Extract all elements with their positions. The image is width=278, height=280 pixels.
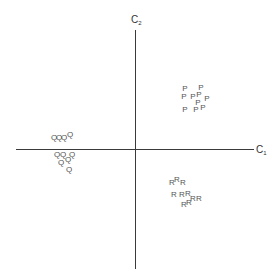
point-q: Q	[58, 159, 64, 167]
point-p: P	[200, 104, 205, 112]
point-q: Q	[65, 156, 71, 164]
point-r: R	[174, 176, 180, 184]
x-axis-label: C1	[256, 145, 267, 156]
point-p: P	[182, 106, 187, 114]
point-q: Q	[66, 166, 72, 174]
point-p: P	[181, 93, 186, 101]
point-r: R	[179, 191, 185, 199]
point-r: R	[196, 195, 202, 203]
point-r: R	[171, 191, 177, 199]
point-r: R	[186, 199, 192, 207]
point-p: P	[193, 106, 198, 114]
y-axis-label: C2	[131, 15, 142, 26]
x-axis	[16, 149, 254, 150]
point-r: R	[180, 179, 186, 187]
point-p: P	[204, 95, 209, 103]
point-q: Q	[67, 131, 73, 139]
